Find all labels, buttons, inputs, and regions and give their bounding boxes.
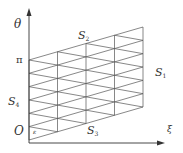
grid-diagonal-line [86, 44, 115, 49]
grid-diagonal-line [115, 62, 144, 67]
diagram: θ π O ξ ε S2 S1 S3 S4 [0, 0, 183, 153]
grid-diagonal-line [86, 70, 115, 75]
grid-diagonal-line [29, 87, 58, 92]
vertical-axis-arrow-icon [27, 8, 32, 16]
grid-diagonal-line [29, 113, 58, 118]
grid-diagonal-line [58, 52, 87, 57]
pi-tick-label: π [16, 55, 23, 65]
triangulated-grid [29, 27, 143, 140]
theta-axis-label: θ [14, 18, 21, 30]
grid-diagonal-line [29, 100, 58, 105]
grid-diagonal-line [29, 60, 58, 65]
grid-diagonal-line [58, 78, 87, 83]
grid-diagonal-line [86, 84, 115, 89]
grid-diagonal-line [115, 102, 144, 107]
origin-label: O [14, 125, 24, 137]
grid-diagonal-line [115, 89, 144, 94]
grid-diagonal-line [115, 49, 144, 54]
grid-diagonal-line [58, 92, 87, 97]
epsilon-label: ε [33, 129, 36, 135]
grid-diagonal-line [86, 97, 115, 102]
grid-diagonal-line [58, 118, 87, 123]
grid-diagonal-line [58, 105, 87, 110]
region-label-s1: S1 [155, 67, 166, 79]
grid-diagonal-line [86, 57, 115, 62]
grid-diagonal-line [115, 35, 144, 40]
horizontal-axis-arrow-icon [157, 141, 165, 146]
xi-axis-label: ξ [167, 125, 172, 134]
grid-diagonal-line [86, 110, 115, 115]
region-label-s2: S2 [78, 30, 89, 42]
grid-diagonal-line [115, 75, 144, 80]
region-label-s3: S3 [87, 125, 98, 137]
region-label-s4: S4 [8, 96, 19, 108]
grid-diagonal-line [29, 73, 58, 78]
grid-diagonal-line [58, 65, 87, 70]
